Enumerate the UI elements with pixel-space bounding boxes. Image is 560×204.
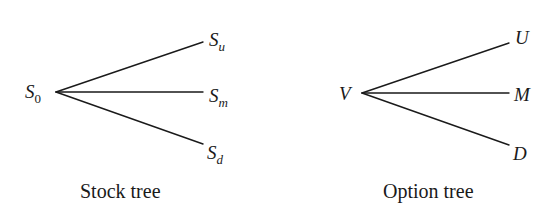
option-down-base: D (513, 143, 527, 164)
stock-root-sub: 0 (35, 91, 42, 106)
option-root-label: V (339, 84, 351, 103)
option-down-branch (362, 93, 509, 145)
option-up-base: U (515, 27, 529, 48)
tree-lines (0, 0, 560, 204)
option-tree-caption: Option tree (383, 181, 474, 201)
stock-up-base: S (209, 29, 219, 50)
option-down-label: D (513, 144, 527, 163)
stock-middle-label: Sm (209, 86, 228, 105)
stock-middle-sub: m (219, 95, 228, 110)
stock-down-sub: d (217, 152, 224, 167)
stock-root-base: S (25, 81, 35, 102)
option-middle-base: M (514, 84, 530, 105)
option-up-label: U (515, 28, 529, 47)
stock-down-base: S (207, 142, 217, 163)
stock-up-label: Su (209, 30, 225, 49)
stock-down-label: Sd (207, 143, 223, 162)
stock-up-branch (56, 42, 203, 92)
stock-down-branch (56, 92, 203, 144)
stock-tree-caption: Stock tree (80, 181, 161, 201)
stock-middle-base: S (209, 85, 219, 106)
stock-up-sub: u (219, 39, 226, 54)
stock-root-label: S0 (25, 82, 41, 101)
option-middle-label: M (514, 85, 530, 104)
option-up-branch (362, 43, 509, 93)
option-root-base: V (339, 83, 351, 104)
